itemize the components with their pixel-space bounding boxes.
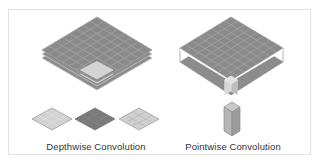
kernel-slice-3 [119,108,159,130]
kernel-slice-2 [75,108,115,130]
pointwise-input-stack [180,17,283,95]
kernel-slice-1 [32,108,72,130]
pointwise-kernel [224,102,240,136]
depthwise-kernels [32,108,159,130]
depthwise-caption: Depthwise Convolution [46,141,145,152]
pointwise-caption: Pointwise Convolution [185,141,281,152]
depthwise-input-stack [42,17,152,90]
